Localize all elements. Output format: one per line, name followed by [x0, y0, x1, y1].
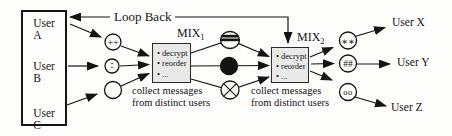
stars-glyph: ∗∗	[341, 36, 355, 47]
mix2-item-ellipsis: • ...	[276, 72, 308, 82]
user-x-label: User X	[392, 16, 425, 28]
mix1-box: • decrypt • reorder • ...	[152, 43, 191, 83]
arrows-messages-to-mix1	[120, 46, 149, 86]
mix1-caption: collect messages from distinct users	[132, 85, 210, 108]
hash-glyph: ##	[343, 59, 353, 69]
user-b-label: User B	[33, 60, 55, 84]
loop-back-label: Loop Back	[110, 9, 175, 25]
mix2-caption: collect messages from distinct users	[251, 85, 329, 108]
oo-glyph: oo	[343, 87, 353, 97]
mix2-subscript: 2	[320, 36, 324, 46]
message-circle-empty	[105, 82, 122, 99]
arrows-users-to-messages	[67, 24, 101, 105]
mix1-item-decrypt: • decrypt	[157, 48, 190, 58]
mix1-item-ellipsis: • ...	[157, 69, 190, 79]
mix2-name: MIX	[297, 30, 320, 44]
mix2-box: • decrypt • reorder • ...	[271, 47, 309, 83]
message-circle-solid	[221, 58, 238, 75]
arrows-mix2-to-messages	[310, 48, 334, 81]
mix1-name: MIX	[177, 26, 200, 40]
user-c-label: User C	[33, 107, 55, 131]
user-y-label: User Y	[397, 56, 429, 68]
arrows-messages-to-receivers	[355, 28, 390, 107]
mix2-title: MIX2	[297, 30, 325, 45]
user-a-label: User A	[33, 17, 55, 41]
mix1-subscript: 1	[200, 32, 204, 42]
dash-glyph: - -	[111, 62, 114, 70]
sender-users-box: User A User B User C	[21, 10, 67, 126]
mix-network-diagram: User A User B User C Loop Back MIX1 • de…	[0, 0, 452, 136]
user-z-label: User Z	[391, 101, 423, 113]
mix1-title: MIX1	[177, 26, 205, 41]
mix1-item-reorder: • reorder	[157, 58, 190, 68]
diagram-lines-layer	[0, 0, 452, 136]
plus-glyph: ++	[108, 37, 119, 48]
